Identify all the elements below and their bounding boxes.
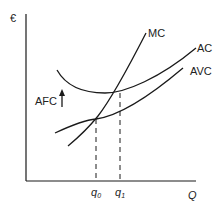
- avc-curve: [55, 68, 183, 133]
- afc-label: AFC: [35, 95, 57, 107]
- ac-label: AC: [197, 42, 212, 54]
- y-axis-label: €: [10, 12, 16, 24]
- mc-label: MC: [148, 27, 165, 39]
- cost-curves-diagram: € Q MC AC AVC AFC q0 q1: [0, 0, 220, 205]
- avc-label: AVC: [190, 65, 212, 77]
- x-axis-label: Q: [188, 189, 197, 201]
- q0-tick-label: q0: [91, 186, 101, 199]
- q1-tick-label: q1: [115, 186, 125, 199]
- arrowhead-up-icon: [59, 89, 65, 96]
